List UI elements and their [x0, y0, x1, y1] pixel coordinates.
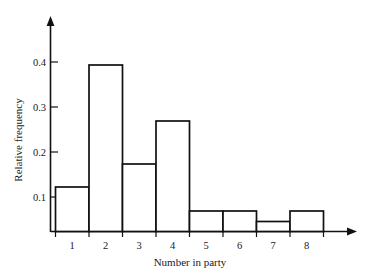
x-tick-label-7: 7: [270, 240, 275, 251]
bar-4: [156, 121, 190, 232]
x-tick-label-5: 5: [203, 240, 208, 251]
y-axis-title: Relative frequency: [12, 98, 24, 182]
x-tick-label-3: 3: [136, 240, 141, 251]
bar-3: [123, 164, 157, 232]
x-tick-label-2: 2: [103, 240, 108, 251]
histogram-chart: 0.1 0.2 0.3 0.4 1 2: [0, 0, 376, 277]
histogram-figure: 0.1 0.2 0.3 0.4 1 2: [0, 0, 376, 277]
y-tick-label-0.4: 0.4: [33, 57, 47, 68]
bar-6: [223, 211, 257, 232]
bar-1: [56, 187, 90, 232]
x-axis-arrow-icon: [347, 228, 357, 236]
y-tick-label-0.3: 0.3: [33, 102, 46, 113]
bar-2: [89, 65, 123, 232]
y-tick-label-0.1: 0.1: [33, 192, 46, 203]
y-axis-ticks: [51, 62, 59, 197]
bar-8: [290, 211, 324, 232]
y-tick-label-0.2: 0.2: [33, 147, 46, 158]
y-axis-arrow-icon: [47, 16, 55, 26]
x-tick-label-8: 8: [304, 240, 309, 251]
bars-group: [56, 65, 324, 232]
x-axis-title: Number in party: [154, 256, 227, 268]
x-tick-label-1: 1: [69, 240, 74, 251]
bar-7: [257, 222, 291, 232]
x-tick-label-4: 4: [170, 240, 176, 251]
x-tick-label-6: 6: [237, 240, 242, 251]
bar-5: [190, 211, 224, 232]
